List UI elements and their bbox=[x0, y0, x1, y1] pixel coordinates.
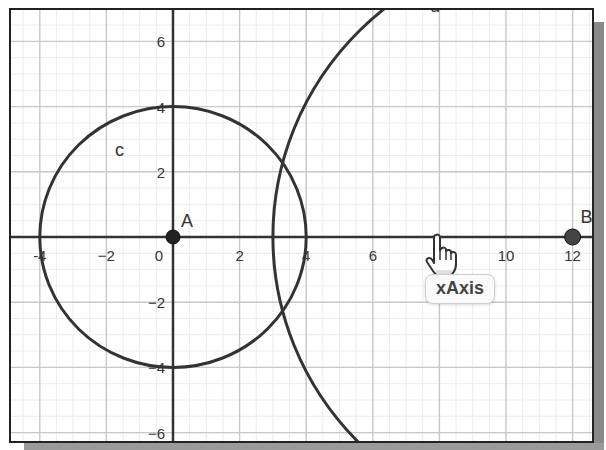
circle-d-label[interactable]: d bbox=[430, 8, 440, 16]
point-A[interactable] bbox=[166, 230, 180, 244]
y-tick-label: 2 bbox=[157, 164, 165, 181]
y-tick-label: 6 bbox=[157, 33, 165, 50]
point-A-label[interactable]: A bbox=[181, 211, 193, 231]
points: AB bbox=[166, 207, 593, 245]
hand-pointer-cursor-icon bbox=[424, 233, 464, 279]
x-tick-label: 0 bbox=[155, 247, 163, 264]
circle-c-label[interactable]: c bbox=[115, 140, 124, 160]
x-tick-label: 6 bbox=[369, 247, 377, 264]
y-tick-label: −6 bbox=[148, 425, 165, 442]
point-B[interactable] bbox=[565, 229, 581, 245]
x-tick-label: 10 bbox=[498, 247, 515, 264]
x-tick-label: 12 bbox=[564, 247, 581, 264]
circle-d[interactable] bbox=[273, 8, 594, 443]
major-grid bbox=[9, 8, 594, 443]
y-tick-label: −2 bbox=[148, 294, 165, 311]
point-B-label[interactable]: B bbox=[581, 207, 593, 227]
x-tick-label: −2 bbox=[98, 247, 115, 264]
x-tick-label: 2 bbox=[235, 247, 243, 264]
window-shadow-bottom bbox=[24, 443, 604, 450]
hover-tooltip: xAxis bbox=[425, 274, 495, 304]
window-shadow-right bbox=[594, 22, 604, 450]
graphics-view[interactable]: -4−202461012642−2−4−6 cd AB bbox=[9, 8, 594, 443]
coordinate-plane[interactable]: -4−202461012642−2−4−6 cd AB bbox=[9, 8, 594, 443]
